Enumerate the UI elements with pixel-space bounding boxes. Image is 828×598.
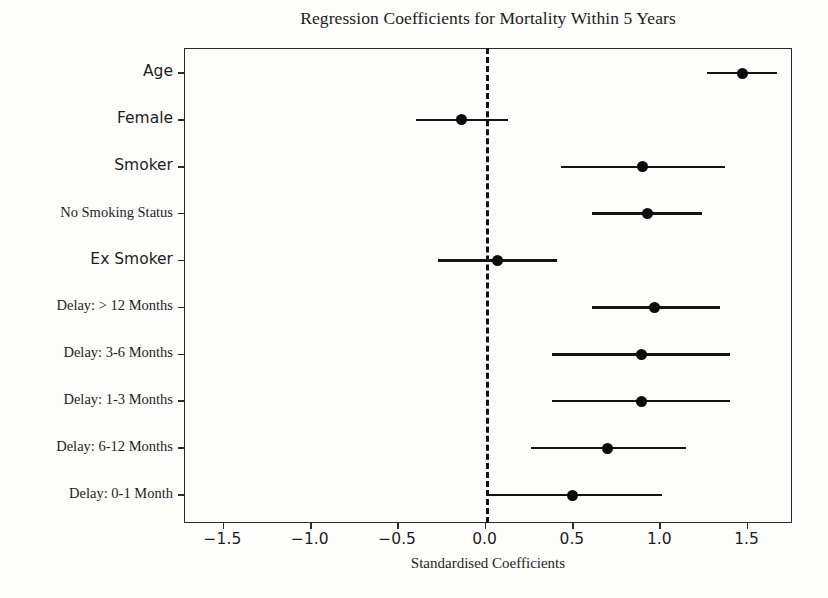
x-axis-tick-label: −1.0 (291, 530, 329, 548)
y-axis-label-smoker: Smoker (114, 156, 173, 174)
y-axis-label-delay-3-6-months: Delay: 3-6 Months (63, 344, 173, 361)
y-axis-tick (178, 400, 185, 402)
y-axis-tick (178, 354, 185, 356)
y-axis-label-delay-12-months: Delay: > 12 Months (56, 297, 173, 314)
y-axis-label-delay-6-12-months: Delay: 6-12 Months (56, 438, 173, 455)
figure-canvas: Regression Coefficients for Mortality Wi… (0, 0, 828, 598)
coefficient-point-marker (649, 302, 660, 313)
y-axis-tick (178, 213, 185, 215)
y-axis-label-age: Age (143, 62, 173, 80)
y-axis-tick (178, 72, 185, 74)
y-axis-label-delay-0-1-month: Delay: 0-1 Month (69, 485, 173, 502)
y-axis-tick (178, 166, 185, 168)
y-axis-tick (178, 119, 185, 121)
x-axis-tick (659, 522, 661, 529)
x-axis-title: Standardised Coefficients (184, 555, 792, 572)
coefficient-point-marker (637, 161, 648, 172)
coefficient-point-marker (567, 490, 578, 501)
coefficient-point-marker (737, 68, 748, 79)
coefficient-point-marker (602, 443, 613, 454)
x-axis-tick-label: 1.0 (647, 530, 672, 548)
y-axis-tick (178, 260, 185, 262)
coefficient-point-marker (642, 208, 653, 219)
x-axis-tick (223, 522, 225, 529)
x-axis-tick (747, 522, 749, 529)
x-axis-tick (397, 522, 399, 529)
coefficient-point-marker (636, 349, 647, 360)
chart-title: Regression Coefficients for Mortality Wi… (184, 8, 792, 29)
x-axis-tick (485, 522, 487, 529)
x-axis-tick-label: 0.5 (560, 530, 585, 548)
y-axis-label-ex-smoker: Ex Smoker (90, 250, 173, 268)
y-axis-label-delay-1-3-months: Delay: 1-3 Months (63, 391, 173, 408)
coefficient-point-marker (492, 255, 503, 266)
x-axis-tick-label: 1.5 (734, 530, 759, 548)
x-axis-tick-label: −0.5 (378, 530, 416, 548)
y-axis-label-female: Female (117, 109, 173, 127)
plot-area (184, 48, 792, 523)
x-axis-tick-label: 0.0 (472, 530, 497, 548)
coefficient-point-marker (636, 396, 647, 407)
x-axis-tick-label: −1.5 (204, 530, 242, 548)
x-axis-tick (572, 522, 574, 529)
coefficient-point-marker (456, 114, 467, 125)
y-axis-tick (178, 494, 185, 496)
x-axis-tick (310, 522, 312, 529)
y-axis-tick (178, 307, 185, 309)
y-axis-label-no-smoking-status: No Smoking Status (60, 204, 173, 221)
y-axis-tick (178, 447, 185, 449)
